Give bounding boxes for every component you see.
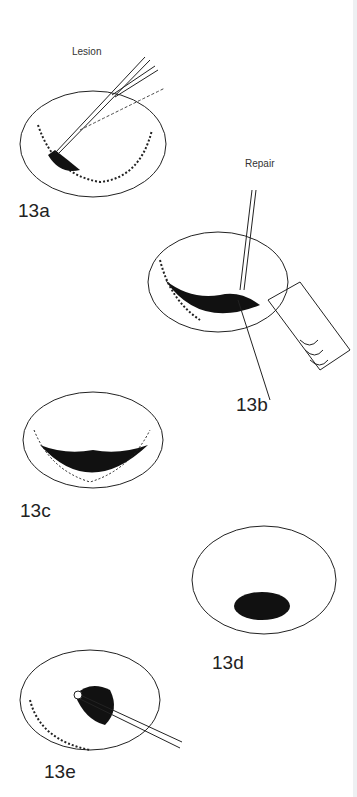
panel-13c-drawing [23,392,163,488]
illustration [0,0,357,797]
figure-label-13a: 13a [18,200,50,222]
annotation-lesion: Lesion [72,46,101,57]
panel-13b-drawing [148,190,350,400]
panel-13a-drawing [20,57,166,197]
figure-label-13e: 13e [44,761,76,783]
panel-13d-drawing [192,526,336,634]
panel-13e-drawing [20,650,182,750]
figure-label-13d: 13d [212,652,244,674]
annotation-repair: Repair [245,158,274,169]
figure-label-13b: 13b [236,394,268,416]
figure-label-13c: 13c [20,500,51,522]
